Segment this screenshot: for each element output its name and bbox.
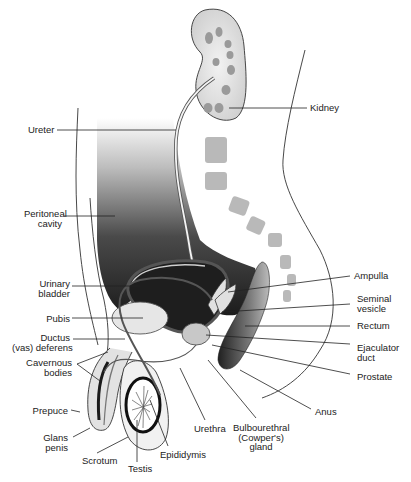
label-ductus-deferens: Ductus (vas) deferens <box>12 333 70 352</box>
label-rectum: Rectum <box>357 321 390 331</box>
label-cavernous-bodies: Cavernous bodies <box>22 358 72 377</box>
label-epididymis-text: Epididymis <box>160 450 206 460</box>
label-anus-text: Anus <box>315 407 337 417</box>
label-prepuce-text: Prepuce <box>30 406 68 416</box>
label-ampulla: Ampulla <box>354 271 388 281</box>
label-testis-text: Testis <box>128 464 152 474</box>
label-pubis: Pubis <box>40 314 70 324</box>
label-prostate-text: Prostate <box>357 372 392 382</box>
label-seminal-vesicle: Seminal vesicle <box>357 294 391 313</box>
label-scrotum: Scrotum <box>82 456 117 466</box>
label-urethra: Urethra <box>194 424 226 434</box>
label-ampulla-text: Ampulla <box>354 271 388 281</box>
label-testis: Testis <box>128 464 152 474</box>
label-kidney-text: Kidney <box>310 103 339 113</box>
label-anus: Anus <box>315 407 337 417</box>
label-kidney: Kidney <box>310 103 339 113</box>
scrotum-testis-shape <box>120 361 168 450</box>
label-bulbourethral-gland: Bulbourethral (Cowper's) gland <box>233 423 289 452</box>
label-ejaculator-duct: Ejaculator duct <box>357 343 399 362</box>
label-ureter: Ureter <box>28 125 54 135</box>
label-urethra-text: Urethra <box>194 424 226 434</box>
label-epididymis: Epididymis <box>160 450 206 460</box>
label-seminal-line2: vesicle <box>357 304 391 314</box>
label-ejaculator-line2: duct <box>357 353 399 363</box>
label-prepuce: Prepuce <box>30 406 68 416</box>
label-ductus-line2: (vas) deferens <box>12 343 70 353</box>
label-cavernous-line2: bodies <box>22 368 72 378</box>
label-bladder-line2: bladder <box>30 289 70 299</box>
label-glans-line2: penis <box>40 443 68 453</box>
label-peritoneal-line2: cavity <box>24 219 62 229</box>
label-peritoneal-cavity: Peritoneal cavity <box>24 209 62 228</box>
label-glans-penis: Glans penis <box>40 433 68 452</box>
prostate-shape <box>182 323 210 345</box>
label-rectum-text: Rectum <box>357 321 390 331</box>
label-pubis-text: Pubis <box>40 314 70 324</box>
label-ureter-text: Ureter <box>28 125 54 135</box>
label-scrotum-text: Scrotum <box>82 456 117 466</box>
label-bulbourethral-line3: gland <box>233 442 289 452</box>
label-prostate: Prostate <box>357 372 392 382</box>
label-urinary-bladder: Urinary bladder <box>30 279 70 298</box>
kidney-shape <box>191 9 246 120</box>
